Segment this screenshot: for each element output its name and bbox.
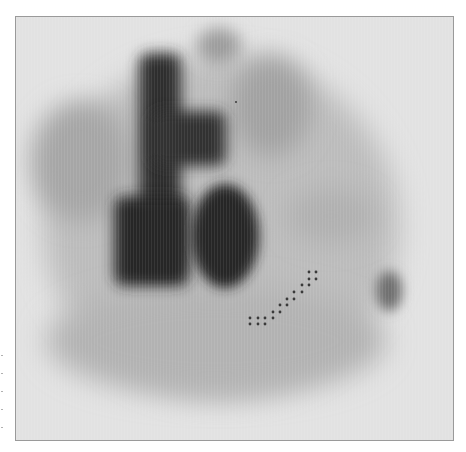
scan-image-frame [15,16,454,441]
marker-dot [308,271,311,274]
single-marker-dot [235,101,237,103]
marker-dot [249,323,252,326]
marker-dot [315,271,318,274]
uptake-regions [16,17,454,441]
marker-dot [264,317,267,320]
marker-dot [308,284,311,287]
marker-dot [308,278,311,281]
marker-dot [264,323,267,326]
marker-dot [293,298,296,301]
marker-dot [249,317,252,320]
scintigraphy-scan [16,17,454,441]
marker-dot [301,284,304,287]
marker-dot [286,304,289,307]
marker-dot [257,323,260,326]
edge-tick-marks [1,355,5,435]
marker-dot [279,311,282,314]
marker-dot [272,317,275,320]
marker-dot [279,304,282,307]
marker-dot [257,317,260,320]
marker-dot [301,291,304,294]
marker-dot [286,298,289,301]
marker-dot [293,291,296,294]
scan-texture [16,17,454,441]
marker-dot [272,311,275,314]
marker-dot [315,278,318,281]
